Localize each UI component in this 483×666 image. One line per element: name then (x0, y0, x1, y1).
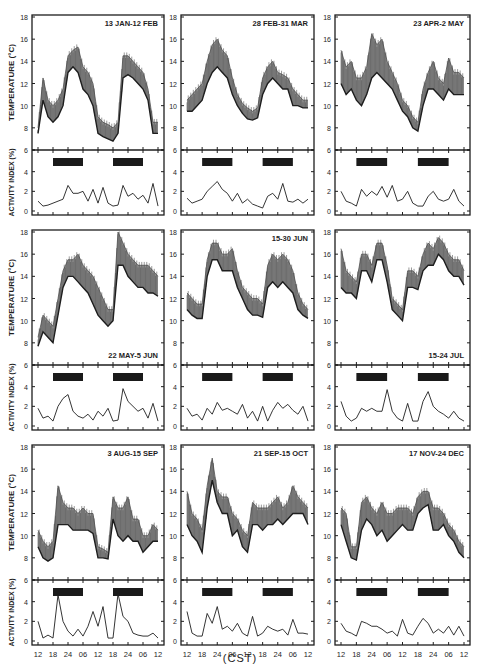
panel-title: 13 JAN-12 FEB (105, 19, 159, 28)
temperature-axis-label: TEMPERATURE (°C) (7, 474, 16, 551)
panel-title: 17 NOV-24 DEC (409, 449, 465, 458)
x-tick-label: 24 (274, 650, 282, 659)
activity-index-line (341, 185, 464, 206)
temp-tick-label: 6 (24, 362, 28, 369)
temp-tick-label: 12 (323, 81, 331, 88)
temp-tick-label: 12 (169, 511, 177, 518)
activity-axis-label: ACTIVITY INDEX (%) (8, 149, 16, 217)
dark-period-bar (113, 373, 143, 381)
activity-axis-label: ACTIVITY INDEX (%) (8, 364, 16, 432)
activity-index-line (187, 402, 308, 421)
activity-tick-label: 2 (327, 188, 331, 195)
activity-index-line (38, 389, 158, 421)
temp-tick-label: 8 (327, 125, 331, 132)
panel-4: 68101214161802422 MAY-5 JUNTEMPERATURE (… (7, 229, 164, 431)
activity-tick-label: 2 (173, 403, 177, 410)
panel-title: 22 MAY-5 JUN (108, 351, 158, 360)
activity-index-line (38, 183, 158, 206)
temp-tick-label: 10 (323, 533, 331, 540)
x-tick-label: 06 (444, 650, 452, 659)
panel-frame (181, 230, 314, 430)
activity-tick-label: 4 (173, 169, 177, 176)
temp-tick-label: 8 (173, 340, 177, 347)
panel-title: 21 SEP-15 OCT (254, 449, 309, 458)
x-tick-label: 18 (109, 650, 117, 659)
temp-tick-label: 14 (323, 273, 331, 280)
x-tick-label: 12 (183, 650, 191, 659)
temp-tick-label: 6 (24, 147, 28, 154)
temp-tick-label: 16 (323, 251, 331, 258)
temp-tick-label: 12 (323, 296, 331, 303)
x-tick-label: 12 (94, 650, 102, 659)
temp-tick-label: 16 (169, 251, 177, 258)
x-tick-label: 06 (289, 650, 297, 659)
dark-period-bar (53, 158, 83, 166)
activity-tick-label: 0 (327, 208, 331, 215)
temp-tick-label: 16 (20, 251, 28, 258)
activity-index-line (341, 618, 464, 636)
x-tick-label: 12 (337, 650, 345, 659)
temp-tick-label: 6 (173, 147, 177, 154)
dark-period-bar (263, 373, 293, 381)
panel-title: 15-30 JUN (272, 234, 308, 243)
x-axis-caption: (CST) (210, 652, 270, 664)
activity-tick-label: 4 (24, 384, 28, 391)
temp-tick-label: 16 (169, 466, 177, 473)
x-tick-label: 18 (49, 650, 57, 659)
temp-tick-label: 10 (20, 318, 28, 325)
dark-period-bar (53, 373, 83, 381)
temp-tick-label: 10 (323, 103, 331, 110)
temp-tick-label: 10 (323, 318, 331, 325)
dark-period-bar (53, 588, 83, 596)
x-tick-label: 12 (460, 650, 468, 659)
temp-tick-label: 18 (169, 14, 177, 21)
temp-tick-label: 18 (20, 229, 28, 236)
temp-tick-label: 10 (20, 103, 28, 110)
panel-6: 68101214161802415-24 JUL (323, 229, 470, 430)
activity-tick-label: 2 (327, 618, 331, 625)
x-tick-label: 18 (352, 650, 360, 659)
x-tick-label: 06 (383, 650, 391, 659)
panel-5: 68101214161802415-30 JUN (169, 229, 314, 430)
x-tick-label: 24 (368, 650, 376, 659)
temp-tick-label: 14 (169, 488, 177, 495)
temperature-range-band (341, 34, 464, 132)
panel-2: 68101214161802428 FEB-31 MAR (169, 14, 314, 215)
temp-tick-label: 14 (323, 58, 331, 65)
activity-tick-label: 0 (327, 423, 331, 430)
activity-tick-label: 2 (24, 618, 28, 625)
dark-period-bar (418, 588, 449, 596)
temp-tick-label: 18 (323, 444, 331, 451)
temp-tick-label: 6 (173, 577, 177, 584)
temp-tick-label: 8 (24, 125, 28, 132)
temp-tick-label: 16 (323, 36, 331, 43)
x-tick-label: 12 (154, 650, 162, 659)
activity-index-line (187, 607, 308, 637)
temp-tick-label: 8 (24, 340, 28, 347)
temp-tick-label: 12 (169, 81, 177, 88)
temp-tick-label: 8 (24, 555, 28, 562)
panel-9: 68101214161802412182406121824061217 NOV-… (323, 444, 470, 659)
temperature-axis-label: TEMPERATURE (°C) (7, 259, 16, 336)
activity-tick-label: 4 (24, 169, 28, 176)
temp-tick-label: 14 (20, 58, 28, 65)
x-tick-label: 18 (198, 650, 206, 659)
activity-tick-label: 4 (327, 599, 331, 606)
dark-period-bar (263, 158, 293, 166)
temp-tick-label: 14 (169, 273, 177, 280)
activity-axis-label: ACTIVITY INDEX (%) (8, 579, 16, 647)
panel-1: 68101214161802413 JAN-12 FEBTEMPERATURE … (7, 14, 164, 216)
panel-title: 23 APR-2 MAY (413, 19, 464, 28)
activity-tick-label: 4 (173, 384, 177, 391)
x-tick-label: 12 (304, 650, 312, 659)
activity-tick-label: 0 (173, 423, 177, 430)
dark-period-bar (202, 158, 232, 166)
temp-tick-label: 12 (323, 511, 331, 518)
dark-period-bar (356, 158, 387, 166)
activity-tick-label: 4 (24, 599, 28, 606)
dark-period-bar (356, 373, 387, 381)
temp-tick-label: 8 (173, 125, 177, 132)
activity-tick-label: 4 (173, 599, 177, 606)
temp-tick-label: 12 (20, 296, 28, 303)
activity-tick-label: 2 (173, 618, 177, 625)
